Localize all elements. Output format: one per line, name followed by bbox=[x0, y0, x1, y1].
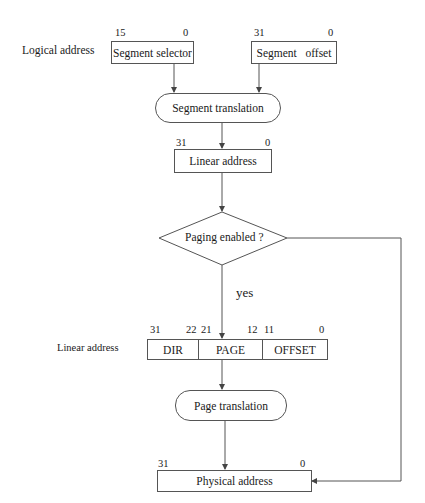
linear-address-label: Linear address bbox=[189, 155, 256, 167]
page-field: PAGE bbox=[199, 340, 263, 359]
dir-bit-low: 22 bbox=[186, 324, 197, 335]
linear-address-split-box: DIR PAGE OFFSET bbox=[147, 339, 328, 360]
linear-address-bit-high: 31 bbox=[176, 137, 187, 148]
segment-offset-bit-low: 0 bbox=[328, 27, 333, 38]
page-bit-low: 12 bbox=[247, 324, 258, 335]
segment-selector-bit-low: 0 bbox=[183, 27, 188, 38]
logical-address-label: Logical address bbox=[22, 44, 95, 56]
linear-address-split-label: Linear address bbox=[57, 342, 119, 353]
segment-offset-box: Segment offset bbox=[251, 41, 337, 64]
dir-bit-high: 31 bbox=[150, 324, 161, 335]
page-translation-node: Page translation bbox=[175, 390, 287, 421]
page-bit-high: 21 bbox=[201, 324, 212, 335]
segment-translation-label: Segment translation bbox=[172, 102, 264, 114]
segment-selector-label: Segment selector bbox=[113, 47, 192, 59]
page-label: PAGE bbox=[216, 344, 245, 356]
page-translation-label: Page translation bbox=[194, 400, 268, 412]
paging-enabled-decision: Paging enabled ? bbox=[185, 231, 264, 243]
physical-address-label: Physical address bbox=[196, 475, 272, 487]
offset-field: OFFSET bbox=[263, 340, 327, 359]
segment-offset-label: Segment offset bbox=[257, 47, 332, 59]
linear-address-box: Linear address bbox=[174, 149, 272, 173]
physical-address-bit-high: 31 bbox=[158, 458, 169, 469]
linear-address-bit-low: 0 bbox=[265, 137, 270, 148]
connector-lines bbox=[0, 0, 425, 503]
physical-address-box: Physical address bbox=[157, 470, 312, 492]
segment-translation-node: Segment translation bbox=[155, 93, 281, 123]
offset-bit-low: 0 bbox=[319, 324, 324, 335]
segment-selector-box: Segment selector bbox=[111, 41, 194, 64]
dir-label: DIR bbox=[163, 344, 183, 356]
yes-label: yes bbox=[236, 285, 253, 301]
segment-offset-bit-high: 31 bbox=[254, 27, 265, 38]
physical-address-bit-low: 0 bbox=[300, 458, 305, 469]
offset-label: OFFSET bbox=[274, 344, 316, 356]
offset-bit-high: 11 bbox=[264, 324, 274, 335]
segment-selector-bit-high: 15 bbox=[115, 27, 126, 38]
dir-field: DIR bbox=[148, 340, 199, 359]
